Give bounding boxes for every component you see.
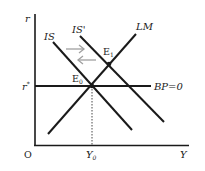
origin-label: O xyxy=(24,149,32,160)
arrow-left-icon xyxy=(78,56,96,64)
e1-label: E1 xyxy=(103,46,114,58)
arrow-right-icon xyxy=(66,45,84,53)
is-label: IS xyxy=(43,31,55,42)
y-axis-label: r xyxy=(25,13,31,24)
bp-label: BP=0 xyxy=(153,81,183,92)
x-axis-label: Y xyxy=(180,149,188,160)
y0-label: Y0 xyxy=(86,149,97,161)
is-lm-bp-diagram: r Y O IS IS' LM BP=0 E1 E0 r* Y0 xyxy=(0,0,205,171)
e1-point xyxy=(107,62,112,67)
r-star-label: r* xyxy=(22,80,30,92)
e0-point xyxy=(90,84,95,89)
is-prime-label: IS' xyxy=(71,24,86,35)
lm-label: LM xyxy=(135,21,154,32)
